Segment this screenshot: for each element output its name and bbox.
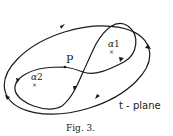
outer-contour bbox=[0, 10, 160, 130]
point-p-dot bbox=[64, 66, 67, 69]
arrow-markers bbox=[5, 24, 151, 100]
arrow-icon bbox=[95, 94, 100, 99]
alpha-2-marker: × bbox=[32, 82, 37, 88]
arrow-icon bbox=[60, 24, 65, 29]
contour-diagram bbox=[0, 0, 173, 136]
alpha-2-label: α2 × bbox=[31, 73, 43, 82]
arrow-icon bbox=[145, 44, 151, 49]
point-p-label: P bbox=[66, 54, 73, 65]
alpha-1-index: 1 bbox=[114, 39, 120, 49]
alpha-1-marker: × bbox=[109, 49, 114, 55]
plane-label: t - plane bbox=[119, 101, 161, 111]
figure-caption: Fig. 3. bbox=[66, 124, 95, 133]
arrow-icon bbox=[119, 57, 124, 62]
alpha-1-label: α1 × bbox=[108, 40, 120, 49]
alpha-2-index: 2 bbox=[37, 72, 43, 82]
